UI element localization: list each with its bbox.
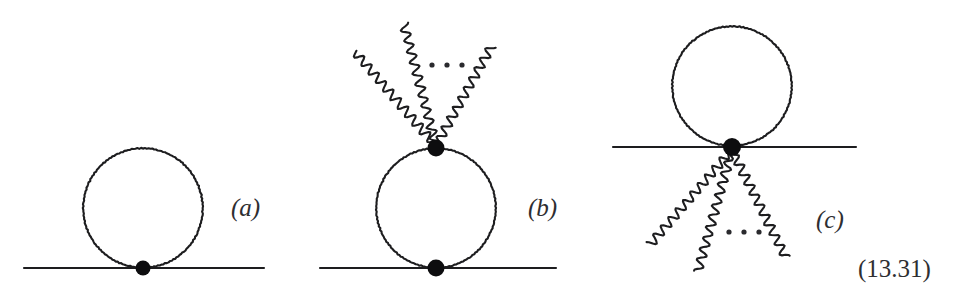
ellipsis-dot-b-2 xyxy=(444,62,449,67)
diagram-canvas xyxy=(0,0,957,303)
panel-label-a: (a) xyxy=(231,195,260,220)
ellipsis-dot-c-1 xyxy=(726,229,731,234)
feynman-diagram-figure: (a) (b) (c) (13.31) xyxy=(0,0,957,303)
vertex-dot-b-1 xyxy=(428,140,445,157)
panel-label-c: (c) xyxy=(816,207,844,232)
loop-circle-c xyxy=(672,26,792,146)
vertex-dot-c-1 xyxy=(723,138,741,156)
photon-line-b-3 xyxy=(436,48,496,146)
ellipsis-dot-b-3 xyxy=(459,62,464,67)
photon-line-c-1 xyxy=(647,150,732,244)
loop-circle-b xyxy=(376,148,496,268)
diagram-panel-a xyxy=(24,148,264,276)
panel-label-b: (b) xyxy=(528,195,557,220)
photon-line-c-3 xyxy=(732,150,790,256)
ellipsis-dot-c-2 xyxy=(741,229,746,234)
diagram-panel-c xyxy=(613,26,856,271)
loop-circle-a xyxy=(83,148,203,268)
ellipsis-dot-b-1 xyxy=(429,62,434,67)
diagram-panel-b xyxy=(320,23,556,277)
photon-line-b-2 xyxy=(401,23,437,146)
equation-number: (13.31) xyxy=(858,256,931,281)
ellipsis-dot-c-3 xyxy=(756,229,761,234)
vertex-dot-b-2 xyxy=(428,260,445,277)
vertex-dot-a-1 xyxy=(136,261,151,276)
